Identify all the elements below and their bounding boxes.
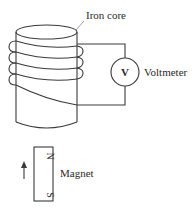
magnet-label: Magnet — [60, 167, 94, 179]
up-arrow-icon — [21, 161, 27, 179]
voltmeter-symbol: V — [121, 66, 129, 78]
north-pole-label: N — [45, 152, 56, 159]
iron-core-leader-line — [76, 21, 84, 30]
bar-magnet: N S — [34, 147, 56, 201]
voltmeter-label: Voltmeter — [144, 66, 188, 78]
voltmeter: V — [111, 58, 139, 86]
circuit-wires — [77, 44, 125, 105]
induction-diagram: V Voltmeter Iron core N S Magnet — [0, 0, 196, 217]
coil — [9, 41, 83, 105]
iron-core-label: Iron core — [86, 9, 126, 21]
south-pole-label: S — [45, 192, 56, 198]
